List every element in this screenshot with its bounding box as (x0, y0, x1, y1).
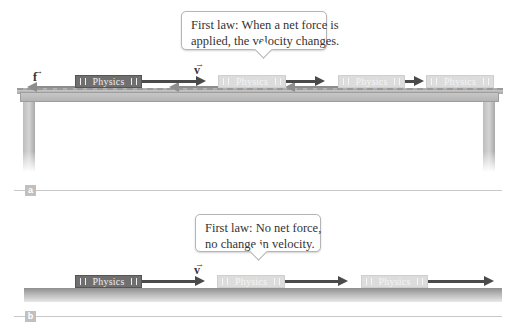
book-ghost: Physics (426, 75, 494, 88)
callout-first-law-no-net-force: First law: No net force, no change in ve… (195, 214, 321, 252)
velocity-label: →v (194, 63, 200, 78)
table-leg-left (23, 102, 35, 172)
table-apron (20, 92, 499, 102)
friction-arrow (36, 86, 76, 88)
panel-tag-a: a (25, 185, 36, 196)
callout-first-law-net-force: First law: When a net force is applied, … (181, 11, 327, 50)
callout-line-2: applied, the velocity changes. (191, 33, 317, 49)
velocity-arrow (405, 80, 415, 83)
book-ghost: Physics (218, 75, 286, 88)
velocity-label: →v (194, 263, 200, 278)
velocity-arrow (285, 280, 339, 283)
velocity-arrow (142, 280, 196, 283)
friction-arrow (178, 86, 218, 88)
panel-divider (14, 316, 502, 317)
panel-tag-b: b (25, 311, 36, 322)
friction-label: →f (33, 70, 37, 85)
velocity-arrow (142, 80, 197, 83)
book-current: Physics (75, 75, 142, 88)
book-title: Physics (93, 276, 125, 287)
callout-line-1: First law: When a net force is (191, 17, 317, 33)
friction-arrow (294, 86, 338, 88)
book-ghost: Physics (361, 275, 428, 288)
callout-line-1: First law: No net force, (205, 220, 311, 236)
book-title: Physics (379, 276, 411, 287)
book-title: Physics (356, 76, 388, 87)
velocity-arrow (428, 280, 485, 283)
book-title: Physics (235, 276, 267, 287)
book-ghost: Physics (217, 275, 285, 288)
book-title: Physics (93, 76, 125, 87)
frictionless-surface (24, 288, 502, 302)
panel-divider (14, 190, 502, 191)
book-ghost: Physics (338, 75, 405, 88)
book-title: Physics (444, 76, 476, 87)
table-leg-right (483, 102, 495, 172)
book-title: Physics (236, 76, 268, 87)
book-current: Physics (75, 275, 142, 288)
velocity-arrow (286, 80, 316, 83)
